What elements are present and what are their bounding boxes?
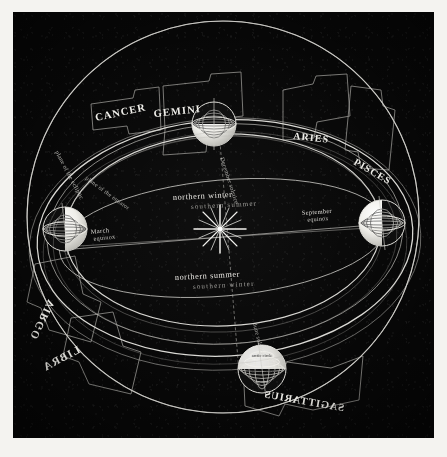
- equinox-axis-line: [79, 227, 385, 246]
- september-equinox-label: September equinox: [302, 207, 334, 223]
- svg-text:plane of the ecliptic: plane of the ecliptic: [54, 149, 86, 200]
- earth-globe-march-equinox: [43, 203, 87, 255]
- zodiac-band-outer-edge: [23, 108, 428, 380]
- zodiac-label-aries: ARIES: [293, 130, 330, 145]
- plane-of-ecliptic-label: plane of the ecliptic: [54, 149, 86, 200]
- svg-text:CANCER: CANCER: [94, 101, 147, 122]
- season-label-northern-winter: northern winter: [173, 190, 233, 202]
- svg-text:equinox: equinox: [307, 215, 329, 222]
- paper-page: December solstice: [0, 0, 447, 457]
- zodiac-label-libra: LIBRA: [40, 343, 82, 373]
- zodiac-label-cancer: CANCER: [94, 101, 147, 122]
- sun-icon: [194, 205, 246, 253]
- zodiac-label-sagittarius: SAGITTARIUS: [263, 388, 345, 413]
- svg-text:SAGITTARIUS: SAGITTARIUS: [263, 388, 345, 413]
- globe-label-equator: equator: [255, 379, 269, 384]
- celestial-sphere-figure: December solstice: [13, 12, 434, 438]
- svg-text:southern summer: southern summer: [191, 200, 258, 211]
- svg-text:southern winter: southern winter: [193, 280, 255, 291]
- svg-text:ARIES: ARIES: [293, 130, 330, 145]
- march-equinox-label: March equinox: [90, 226, 115, 242]
- season-label-southern-winter: southern winter: [193, 280, 255, 291]
- svg-text:equinox: equinox: [93, 233, 116, 241]
- engraved-plate: December solstice: [13, 12, 434, 438]
- svg-text:LIBRA: LIBRA: [40, 343, 82, 373]
- globe-label-tropic-of-cancer: tropic of cancer: [247, 368, 276, 373]
- svg-text:northern winter: northern winter: [173, 190, 233, 202]
- season-label-southern-summer: southern summer: [191, 200, 258, 211]
